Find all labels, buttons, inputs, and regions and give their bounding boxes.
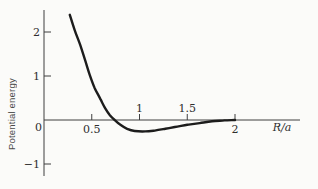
y-tick-label: −1 <box>24 158 40 171</box>
chart-canvas: 0.511.5221−10 <box>0 0 318 189</box>
x-axis-title: R/a <box>265 121 299 134</box>
x-tick-label: 1.5 <box>179 102 197 115</box>
potential-energy-curve <box>70 15 235 132</box>
origin-label: 0 <box>35 121 42 134</box>
y-tick-label: 1 <box>33 70 40 83</box>
potential-energy-chart: 0.511.5221−10 Potential energy R/a <box>0 0 318 189</box>
x-tick-label: 1 <box>136 102 143 115</box>
y-tick-label: 2 <box>33 26 40 39</box>
x-tick-label: 2 <box>232 123 239 136</box>
x-tick-label: 0.5 <box>83 123 101 136</box>
y-axis-title: Potential energy <box>6 75 17 153</box>
